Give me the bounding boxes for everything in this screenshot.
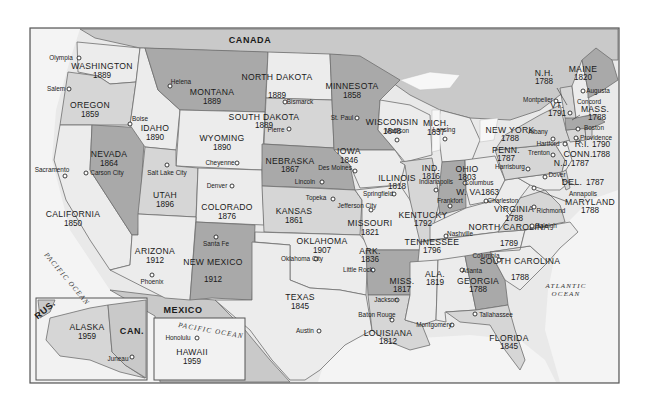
label-state-name: WISCONSIN	[366, 117, 418, 127]
label-state-year: 1850	[64, 219, 83, 228]
label-state-year: 1787	[586, 178, 605, 187]
label-state-year: 1789	[500, 239, 519, 248]
label-state-year: 1788	[535, 77, 554, 86]
label-capital: Lansing	[433, 126, 456, 134]
label-state-name: COLORADO	[201, 202, 253, 212]
label-capital: St. Paul	[331, 114, 353, 121]
label-state-year: 1959	[183, 357, 202, 366]
capital-marker-icon	[331, 197, 335, 201]
label-state-year: 1788	[592, 150, 611, 159]
label-capital: Topeka	[306, 194, 327, 202]
label-canada: CANADA	[229, 35, 272, 45]
label-state-year: 1791	[548, 109, 567, 118]
label-capital: Providence	[580, 134, 612, 141]
capital-marker-icon	[448, 204, 452, 208]
label-state-year: 1821	[361, 228, 380, 237]
capital-marker-icon	[353, 169, 357, 173]
capital-marker-icon	[230, 184, 234, 188]
label-capital: Boston	[584, 124, 604, 131]
label-state-name: UTAH	[153, 190, 177, 200]
label-capital: Baton Rouge	[358, 311, 396, 319]
label-capital: Albany	[528, 128, 548, 136]
label-state-name: W. VA.	[456, 187, 483, 197]
label-canada-inset: CAN.	[120, 326, 144, 336]
label-capital: Trenton	[528, 149, 550, 156]
capital-marker-icon	[532, 186, 536, 190]
label-atlantic-2: OCEAN	[552, 290, 581, 298]
label-state-year: 1845	[291, 302, 310, 311]
label-capital: Honolulu	[165, 334, 191, 341]
label-capital: Carson City	[90, 169, 124, 177]
capital-marker-icon	[317, 329, 321, 333]
label-capital: Olympia	[49, 54, 73, 62]
label-mexico: MEXICO	[163, 305, 202, 315]
label-capital: Atlanta	[462, 267, 482, 274]
label-state-name: WASHINGTON	[71, 61, 133, 71]
label-capital: Pierre	[267, 126, 284, 133]
label-state-name: TEXAS	[285, 292, 315, 302]
label-capital: Harrisburg	[495, 163, 525, 171]
label-state-name: KANSAS	[276, 206, 313, 216]
label-capital: Dover	[548, 171, 566, 178]
label-state-year: 1788	[469, 285, 488, 294]
capital-marker-icon	[526, 167, 530, 171]
label-state-year: 1845	[500, 342, 519, 351]
label-state-name: NEVADA	[91, 149, 128, 159]
label-capital: Salt Lake City	[147, 169, 187, 177]
capital-marker-icon	[320, 180, 324, 184]
state-south-dakota	[264, 98, 334, 148]
label-capital: Richmond	[537, 207, 566, 214]
label-state-year: 1889	[268, 91, 287, 100]
capital-marker-icon	[434, 188, 438, 192]
label-state-name: OKLAHOMA	[296, 236, 347, 246]
label-state-name: OREGON	[70, 100, 110, 110]
label-capital: Annapolis	[569, 190, 597, 198]
capital-marker-icon	[395, 138, 399, 142]
label-capital: Little Rock	[343, 266, 374, 273]
label-capital: Lincoln	[295, 178, 316, 185]
label-state-year: 1858	[343, 91, 362, 100]
label-capital: Nashville	[447, 230, 473, 237]
label-state-name: HAWAII	[176, 347, 208, 357]
label-state-year: 1819	[426, 278, 445, 287]
capital-marker-icon	[77, 56, 81, 60]
label-state-year: 1890	[146, 133, 165, 142]
capital-marker-icon	[150, 273, 154, 277]
label-capital: Bismarck	[287, 98, 314, 105]
label-state-year: 1812	[379, 337, 398, 346]
label-capital: Salem	[47, 85, 65, 92]
label-state-year: 1788	[505, 214, 524, 223]
label-state-year: 1912	[204, 275, 223, 284]
label-capital: Frankfort	[437, 197, 463, 204]
capital-marker-icon	[63, 174, 67, 178]
label-state-year: 1788	[511, 273, 530, 282]
capital-marker-icon	[287, 127, 291, 131]
capital-marker-icon	[581, 89, 585, 93]
label-state-year: 1788	[588, 113, 607, 122]
label-state-year: 1912	[146, 256, 165, 265]
label-capital: Jackson	[374, 296, 398, 303]
label-capital: Helena	[171, 78, 192, 85]
label-capital: Montgomery	[416, 321, 452, 329]
capital-marker-icon	[390, 318, 394, 322]
label-capital: Columbus	[465, 179, 494, 186]
label-state-year: 1864	[100, 159, 119, 168]
label-state-year: 1817	[393, 285, 412, 294]
capital-marker-icon	[473, 312, 477, 316]
capital-marker-icon	[554, 99, 558, 103]
label-state-year: 1889	[93, 71, 112, 80]
label-capital: Montpelier	[523, 96, 554, 104]
label-capital: Springfield	[363, 190, 394, 198]
label-state-year: 1890	[213, 143, 232, 152]
label-capital: Concord	[577, 98, 602, 105]
label-state-name: ALASKA	[69, 322, 104, 332]
label-state-year: 1787	[497, 154, 516, 163]
label-atlantic-1: ATLANTIC	[544, 282, 586, 290]
label-state-year: 1876	[218, 212, 237, 221]
capital-marker-icon	[576, 127, 580, 131]
label-state-year: 1788	[581, 206, 600, 215]
label-state-year: 1867	[281, 165, 300, 174]
label-state-name: MONTANA	[190, 87, 234, 97]
label-state-name: DEL.	[562, 177, 582, 187]
label-state-year: 1959	[78, 332, 97, 341]
